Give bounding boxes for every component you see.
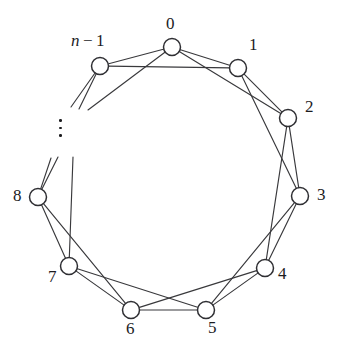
graph-edge: [180, 49, 231, 65]
graph-node-1[interactable]: [230, 60, 247, 77]
graph-edge: [108, 66, 230, 68]
node-label-5: 5: [208, 319, 217, 336]
graph-edge: [108, 49, 165, 64]
graph-edge: [77, 268, 199, 307]
node-label-1: 1: [249, 36, 258, 53]
graph-edge: [268, 203, 296, 261]
graph-edge: [41, 204, 65, 258]
dangling-edges-layer: [41, 52, 166, 258]
dangling-edge: [69, 157, 73, 258]
ring-graph-canvas: [0, 0, 337, 352]
node-label-n-1: n − 1: [71, 32, 104, 49]
node-label-7: 7: [48, 268, 57, 285]
graph-node-6[interactable]: [123, 302, 140, 319]
graph-node-5[interactable]: [198, 302, 215, 319]
graph-node-3[interactable]: [292, 188, 309, 205]
graph-node-n-1[interactable]: [92, 58, 109, 75]
node-label-3: 3: [317, 186, 326, 203]
graph-node-8[interactable]: [30, 189, 47, 206]
graph-edge: [289, 126, 299, 188]
graph-edge: [266, 126, 287, 260]
node-label-2: 2: [305, 98, 314, 115]
graph-figure: 012345678n − 1: [0, 0, 337, 352]
vertical-ellipsis-icon: [59, 119, 63, 137]
nodes-layer: [30, 39, 309, 319]
graph-edge: [139, 270, 258, 307]
graph-edge: [244, 74, 283, 113]
graph-edge: [241, 75, 296, 189]
graph-edge: [43, 203, 126, 304]
graph-node-4[interactable]: [257, 260, 274, 277]
graph-edge: [179, 51, 281, 114]
graph-node-0[interactable]: [164, 39, 181, 56]
graph-node-2[interactable]: [280, 110, 297, 127]
graph-edge: [211, 202, 295, 304]
node-label-8: 8: [13, 187, 22, 204]
node-label-4: 4: [278, 265, 287, 282]
dangling-edge: [71, 73, 95, 107]
graph-node-7[interactable]: [61, 258, 78, 275]
node-label-0: 0: [166, 15, 175, 32]
node-label-6: 6: [126, 320, 135, 337]
